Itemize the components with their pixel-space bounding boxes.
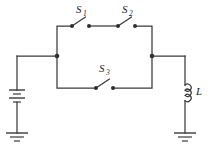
switch-1-blade[interactable] bbox=[72, 17, 86, 26]
inductor-branch bbox=[152, 56, 196, 141]
switch-2-label: S bbox=[122, 3, 128, 15]
battery-branch bbox=[6, 56, 57, 141]
top-branch bbox=[57, 26, 152, 56]
top-right-wire bbox=[135, 26, 152, 56]
switch-2-label-subscript: 2 bbox=[129, 9, 133, 18]
switch-1-label-subscript: 1 bbox=[83, 9, 87, 18]
switch-1-label: S bbox=[76, 3, 82, 15]
inductor-symbol bbox=[185, 84, 191, 102]
switch-2[interactable] bbox=[116, 17, 137, 28]
ground-right-symbol bbox=[174, 133, 196, 141]
switch-3-right-contact bbox=[111, 86, 115, 90]
switch-3-blade[interactable] bbox=[96, 79, 110, 88]
middle-right-wire bbox=[113, 56, 152, 88]
circuit-diagram: S 1 S 2 S 3 bbox=[0, 0, 211, 149]
switch-2-left-contact bbox=[116, 24, 120, 28]
switch-3[interactable] bbox=[94, 79, 115, 90]
circuit-schematic-canvas: S 1 S 2 S 3 bbox=[0, 0, 211, 149]
inductor-coil-loops bbox=[185, 84, 191, 102]
switch-3-left-contact bbox=[94, 86, 98, 90]
switch-1-left-contact bbox=[70, 24, 74, 28]
switch-3-label: S bbox=[99, 62, 105, 74]
switch-3-label-subscript: 3 bbox=[105, 68, 110, 77]
switch-1-right-contact bbox=[87, 24, 91, 28]
middle-left-wire bbox=[57, 56, 96, 88]
inductor-label: L bbox=[195, 85, 202, 97]
battery-symbol bbox=[9, 90, 25, 102]
switch-2-right-contact bbox=[133, 24, 137, 28]
ground-left-symbol bbox=[6, 133, 28, 141]
top-left-wire bbox=[57, 26, 72, 56]
switch-1[interactable] bbox=[70, 17, 91, 28]
switch-2-blade[interactable] bbox=[118, 17, 132, 26]
middle-branch bbox=[57, 56, 152, 88]
